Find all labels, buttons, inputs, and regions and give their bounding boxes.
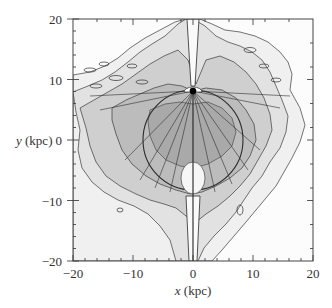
- x-axis-unit: (kpc): [181, 283, 212, 298]
- y-axis-unit: (kpc): [22, 133, 53, 148]
- x-tick-label: 10: [247, 266, 260, 281]
- x-tick-label: −10: [123, 266, 143, 281]
- y-tick-label: 10: [49, 73, 62, 88]
- y-tick-label: −20: [42, 254, 62, 269]
- observer-marker-dot: [190, 88, 197, 95]
- y-tick-label: 0: [56, 133, 63, 148]
- x-tick-label: −20: [63, 266, 83, 281]
- x-tick-label: 20: [307, 266, 320, 281]
- y-tick-label: 20: [49, 12, 62, 27]
- y-axis-label: y (kpc): [14, 133, 52, 148]
- y-tick-label: −10: [42, 194, 62, 209]
- contour-map-figure: 20 10 0 −10 −20 −20 −10 0 10 20 x (kpc) …: [0, 0, 332, 308]
- x-tick-label: 0: [190, 266, 197, 281]
- x-axis-label: x (kpc): [174, 283, 211, 298]
